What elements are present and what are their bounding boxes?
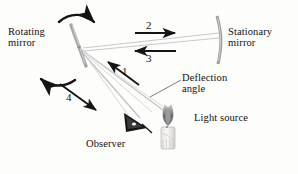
label-ray-number-1: 1 <box>122 66 128 78</box>
label-ray-number-4: 4 <box>66 92 72 104</box>
diagram-canvas: Rotating mirror Stationary mirror Deflec… <box>0 0 298 174</box>
rotating-mirror-icon <box>71 25 86 66</box>
ray-path-fan-b <box>82 51 152 112</box>
deflection-angle-leader <box>150 80 181 97</box>
label-rotating-mirror: Rotating mirror <box>8 26 45 49</box>
candle-light-source-icon <box>161 104 175 149</box>
label-ray-number-3: 3 <box>146 53 152 65</box>
curved-arrow-right-icon <box>59 15 94 22</box>
label-ray-number-2: 2 <box>146 20 152 32</box>
label-observer: Observer <box>86 138 125 149</box>
label-deflection-angle: Deflection angle <box>182 72 227 95</box>
label-stationary-mirror: Stationary mirror <box>228 26 272 49</box>
curved-arrow-left-icon <box>41 79 75 86</box>
stationary-mirror-icon <box>217 16 221 64</box>
label-light-source: Light source <box>194 112 248 123</box>
